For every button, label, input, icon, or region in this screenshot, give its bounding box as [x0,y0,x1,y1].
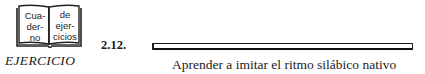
book-text-line: Cua- [21,10,49,21]
book-text-line: cicios [50,31,80,42]
cuaderno-de-ejercicios-book-icon: Cua- der- no de ejer- cicios [15,4,83,48]
exercise-label: EJERCICIO [5,53,75,69]
book-left-page-text: Cua- der- no [21,10,49,43]
book-right-page-text: de ejer- cicios [50,9,80,42]
exercise-number: 2.12. [101,38,126,53]
book-text-line: ejer- [50,20,80,31]
book-text-line: no [21,32,49,43]
title-rule-bar [152,43,413,50]
exercise-title: Aprender a imitar el ritmo silábico nati… [172,57,396,73]
book-text-line: der- [21,21,49,32]
book-text-line: de [50,9,80,20]
